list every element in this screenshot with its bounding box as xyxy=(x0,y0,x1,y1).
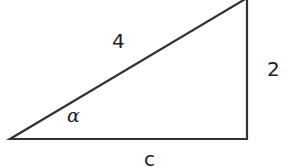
base-label: c xyxy=(144,149,155,167)
hypotenuse-label: 4 xyxy=(112,31,125,51)
triangle-shape xyxy=(0,0,288,167)
angle-alpha-label: α xyxy=(67,106,80,125)
vertical-side-label: 2 xyxy=(267,59,280,79)
triangle-outline xyxy=(10,0,247,139)
